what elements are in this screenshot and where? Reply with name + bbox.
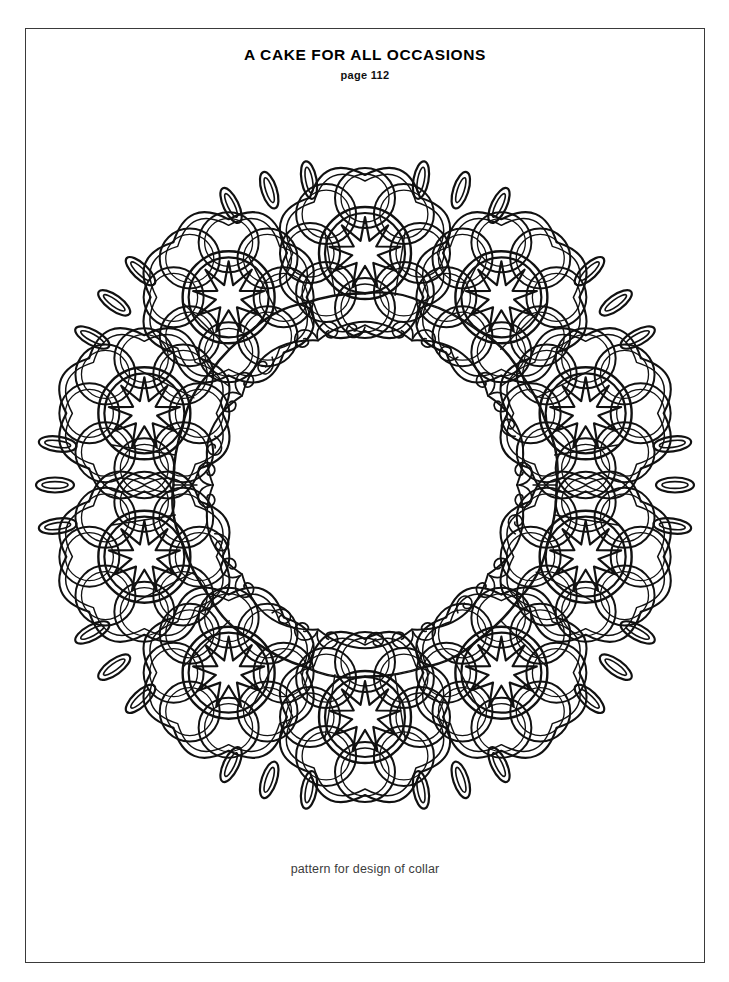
flower-petal-echo — [523, 428, 571, 476]
chain-link-inner — [102, 657, 127, 678]
flower-petal-echo — [523, 494, 571, 542]
flower-petal-echo — [166, 312, 214, 360]
flower-center-ring-inner — [189, 633, 269, 713]
chain-link-inner — [102, 292, 127, 313]
chain-link — [448, 759, 474, 800]
chain-link — [596, 650, 636, 684]
flower-center-ring-inner — [325, 213, 405, 293]
flower-petal-echo — [516, 688, 564, 736]
chain-link — [448, 170, 474, 211]
chain-link — [36, 478, 74, 493]
mandala-svg — [25, 105, 705, 865]
flower-petal-echo — [166, 688, 214, 736]
flower-motif — [501, 328, 671, 498]
chain-link-outer — [94, 286, 134, 320]
chain-link — [94, 286, 134, 320]
flower-petal-echo — [516, 610, 564, 658]
chain-link-outer — [596, 286, 636, 320]
flower-motif — [59, 472, 229, 642]
chain-link — [94, 650, 134, 684]
flower-petal-echo — [601, 428, 649, 476]
chain-link-inner — [603, 292, 628, 313]
chain-link-outer — [256, 759, 282, 800]
flower-petal-echo — [81, 572, 129, 620]
flower-center-ring-inner — [461, 633, 541, 713]
flower-petal-echo — [81, 494, 129, 542]
inner-scallop-ring-group — [207, 322, 523, 649]
chain-link-inner — [662, 482, 688, 489]
chain-link — [256, 170, 282, 211]
chain-link-outer — [256, 170, 282, 211]
web-lattice-group — [112, 232, 618, 738]
flower-petal-echo — [159, 572, 207, 620]
flower-petal-echo — [166, 234, 214, 282]
flower-center-ring-inner — [546, 373, 626, 453]
flower-petal-echo — [302, 190, 350, 238]
page-title: A CAKE FOR ALL OCCASIONS — [25, 46, 705, 64]
chain-link — [596, 286, 636, 320]
chain-link-inner — [42, 482, 68, 489]
chain-link — [256, 759, 282, 800]
flower-petal-echo — [601, 350, 649, 398]
flower-petal-echo — [601, 494, 649, 542]
flower-petal-echo — [601, 572, 649, 620]
mandala-artwork — [25, 105, 705, 865]
chain-link-inner — [603, 657, 628, 678]
flower-petal-echo — [380, 732, 428, 780]
flower-petal-echo — [159, 494, 207, 542]
flower-center-ring-inner — [189, 257, 269, 337]
flower-center-ring-inner — [461, 257, 541, 337]
web-ring-1 — [173, 293, 557, 677]
page-reference: page 112 — [25, 69, 705, 81]
flower-petal-echo — [159, 428, 207, 476]
flower-petal-echo — [523, 350, 571, 398]
flower-motif — [501, 472, 671, 642]
flower-motif — [59, 328, 229, 498]
page-root: A CAKE FOR ALL OCCASIONS page 112 patter… — [0, 0, 729, 982]
flower-center-ring-inner — [104, 373, 184, 453]
flower-petal-echo — [302, 732, 350, 780]
flower-center-ring-inner — [104, 517, 184, 597]
artwork-caption: pattern for design of collar — [25, 862, 705, 876]
flower-center-ring-inner — [325, 677, 405, 757]
chain-link-outer — [448, 170, 474, 211]
chain-link — [656, 478, 694, 493]
chain-link-outer — [448, 759, 474, 800]
outer-chain-group — [36, 160, 694, 810]
page-header: A CAKE FOR ALL OCCASIONS page 112 — [25, 46, 705, 81]
flower-center-ring-inner — [546, 517, 626, 597]
flower-petal-echo — [81, 428, 129, 476]
chain-link-outer — [94, 650, 134, 684]
scroll-curl-group — [198, 319, 532, 650]
flower-petal-echo — [81, 350, 129, 398]
flower-petal-echo — [380, 190, 428, 238]
flower-petal-echo — [516, 234, 564, 282]
chain-link-outer — [596, 650, 636, 684]
flower-group — [59, 168, 671, 802]
